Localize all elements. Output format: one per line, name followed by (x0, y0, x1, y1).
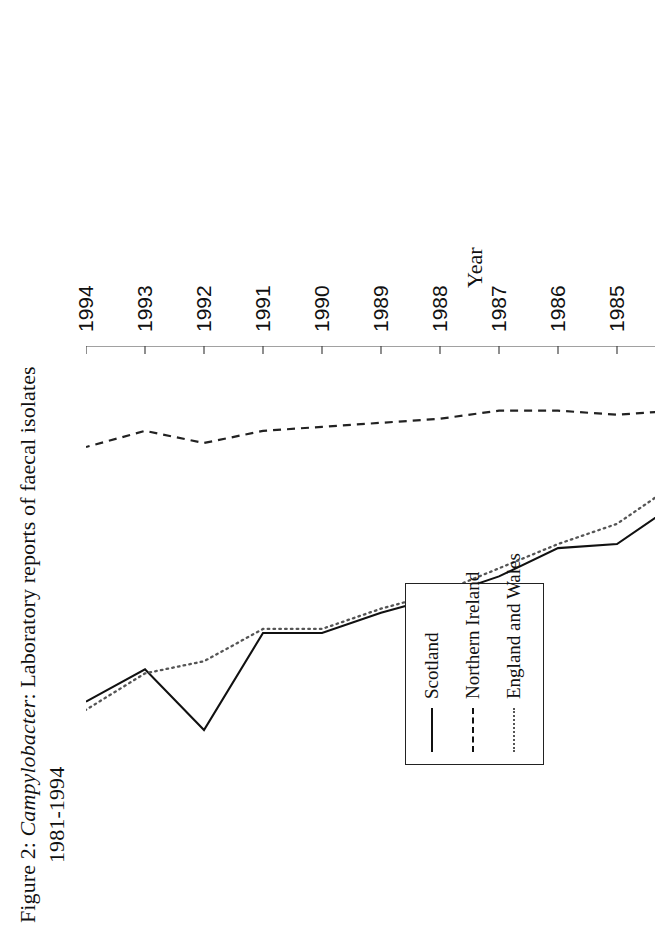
x-axis-tick-label: 1993 (133, 285, 157, 332)
legend-label-scotland: Scotland (421, 633, 443, 700)
plot-area (86, 346, 655, 831)
x-axis-tick-label: 1992 (192, 285, 216, 332)
x-axis-tick-label: 1990 (310, 285, 334, 332)
figure-label: Figure 2: (15, 842, 40, 923)
legend-item-england-and-wales: England and Wales (499, 592, 529, 752)
figure-subtitle: 1981-1994 (43, 163, 72, 863)
x-axis-tick-label: 1988 (428, 285, 452, 332)
legend-item-scotland: Scotland (417, 592, 447, 752)
legend-label-england-and-wales: England and Wales (503, 553, 525, 699)
figure-title: Figure 2: Campylobacter: Laboratory repo… (14, 163, 71, 923)
x-axis-tick-label: 1994 (74, 285, 98, 332)
x-axis-tick-label: 1986 (546, 285, 570, 332)
x-axis-title: Year (462, 247, 488, 288)
legend-label-northern-ireland: Northern Ireland (462, 572, 484, 699)
legend-box: Scotland Northern Ireland England and Wa… (405, 583, 544, 765)
legend-swatch-dotted-line (513, 708, 515, 752)
figure-canvas: Figure 2: Campylobacter: Laboratory repo… (0, 0, 655, 941)
x-axis-tick-label: 1987 (487, 285, 511, 332)
series-group (86, 395, 655, 730)
x-axis-tick-label: 1985 (605, 285, 629, 332)
y-axis-ticks (86, 346, 655, 354)
legend-swatch-dashed-line (472, 708, 474, 752)
legend-item-northern-ireland: Northern Ireland (458, 592, 488, 752)
series-line-northern-ireland (86, 395, 655, 448)
figure-title-rest: : Laboratory reports of faecal isolates (15, 366, 40, 699)
axes-group (86, 346, 655, 831)
x-axis-tick-label: 1991 (251, 285, 275, 332)
plot-svg (86, 346, 655, 831)
legend-swatch-solid-line (431, 708, 433, 752)
organism-name: Campylobacter (15, 699, 40, 836)
series-line-scotland (86, 492, 655, 730)
series-line-england-and-wales (86, 423, 655, 710)
x-axis-tick-label: 1989 (369, 285, 393, 332)
